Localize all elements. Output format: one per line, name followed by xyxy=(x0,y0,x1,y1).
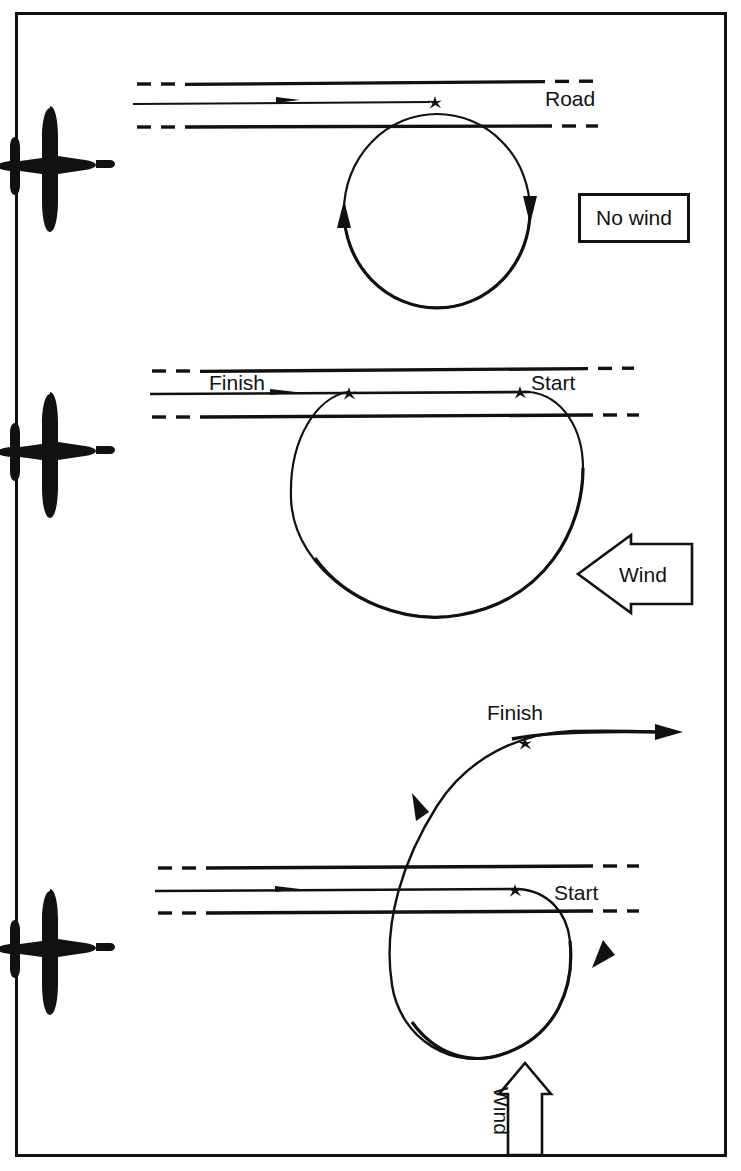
panel-crosswind-graphics xyxy=(0,368,692,617)
ground-track-heavy-arc xyxy=(315,468,583,617)
road-lower-edge xyxy=(158,911,639,913)
track-arrow-left-up xyxy=(337,200,351,228)
start-label-drift: Start xyxy=(554,882,598,903)
track-arrow-climbout-up xyxy=(412,793,429,821)
track-arrow-right-down xyxy=(592,940,615,968)
exit-track-heavy-arc xyxy=(512,732,660,739)
airplane-top-view-icon xyxy=(0,106,115,232)
finish-label-crosswind: Finish xyxy=(209,372,265,393)
wind-label-drift: Wind xyxy=(489,1087,513,1135)
finish-label-drift: Finish xyxy=(487,702,543,723)
entry-star-marker xyxy=(428,96,442,109)
track-arrow-right-down xyxy=(523,196,537,224)
airplane-top-view-icon xyxy=(0,889,115,1015)
road-label: Road xyxy=(545,88,595,109)
inbound-track-line xyxy=(155,889,518,891)
wind-label-crosswind: Wind xyxy=(619,563,667,587)
ground-track-heavy-arc xyxy=(412,941,571,1058)
start-label-crosswind: Start xyxy=(531,372,575,393)
panel-headwind-drift-graphics xyxy=(0,724,683,1155)
road-lower-edge xyxy=(137,126,598,127)
ground-track-heavy-arc xyxy=(344,211,530,308)
oval-ground-track xyxy=(291,392,583,617)
road-upper-edge xyxy=(158,866,639,868)
spiral-ground-track xyxy=(390,731,662,1059)
no-wind-callout-box: No wind xyxy=(578,193,690,243)
figure-page: Road No wind Finish Start Wind Finish St… xyxy=(0,0,741,1171)
exit-direction-arrow xyxy=(655,724,683,740)
panel-no-wind-graphics xyxy=(0,81,598,308)
start-star-marker xyxy=(508,884,522,897)
road-lower-edge xyxy=(152,415,639,417)
road-upper-edge xyxy=(137,81,593,84)
airplane-top-view-icon xyxy=(0,392,115,518)
